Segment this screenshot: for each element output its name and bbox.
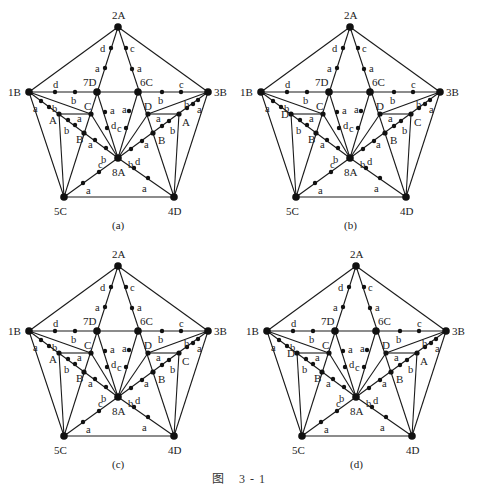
vertex-8A bbox=[346, 154, 354, 162]
inner-node bbox=[150, 369, 155, 374]
edge-label: a bbox=[33, 342, 38, 353]
vertex-1B bbox=[263, 327, 271, 335]
edge-label: d bbox=[332, 43, 338, 54]
inner-node bbox=[145, 350, 150, 355]
dot bbox=[146, 176, 150, 180]
edge-label: a bbox=[315, 352, 320, 363]
dot bbox=[335, 110, 339, 114]
edge-label: a bbox=[88, 378, 93, 389]
dot bbox=[191, 341, 195, 345]
edge-label: c bbox=[98, 398, 103, 409]
dot bbox=[130, 67, 134, 71]
inner-node-label: C bbox=[414, 116, 421, 128]
dot bbox=[277, 338, 281, 342]
edge-label: b bbox=[170, 364, 175, 375]
vertex-5C bbox=[292, 193, 300, 201]
edge-2A-1B bbox=[29, 27, 118, 92]
vertex-label: 3B bbox=[214, 325, 227, 337]
edge-label: a bbox=[327, 63, 332, 74]
edge-label: a bbox=[86, 185, 91, 196]
inner-node bbox=[414, 350, 419, 355]
figure-3-1: 2A1B3B7D6C8A5C4Ddacadbcbabababadacababac… bbox=[0, 0, 478, 493]
edge-label: a bbox=[86, 424, 91, 435]
dot bbox=[160, 363, 164, 367]
edge-label: a bbox=[265, 103, 270, 114]
edge-label: a bbox=[348, 344, 353, 355]
dot bbox=[103, 110, 107, 114]
dot bbox=[167, 119, 171, 123]
dot bbox=[341, 349, 345, 353]
edge-label: a bbox=[122, 104, 127, 115]
vertex-2A bbox=[114, 23, 122, 31]
inner-node-label: B bbox=[76, 372, 83, 384]
vertex-1B bbox=[257, 88, 265, 96]
vertex-label: 7D bbox=[83, 315, 97, 327]
edge-label: b bbox=[360, 159, 365, 170]
edge-2A-3B bbox=[118, 266, 208, 331]
edge-label: d bbox=[100, 282, 106, 293]
edge-label: a bbox=[324, 424, 329, 435]
edge-label: a bbox=[77, 113, 82, 124]
dot bbox=[124, 365, 128, 369]
edge-label: d bbox=[53, 318, 59, 329]
dot bbox=[356, 46, 360, 50]
vertex-3B bbox=[204, 88, 212, 96]
edge-1B-LC bbox=[267, 331, 329, 353]
edge-2A-3B bbox=[350, 27, 440, 92]
inner-node-label: D bbox=[382, 339, 390, 351]
dot bbox=[53, 90, 57, 94]
edge-label: b bbox=[158, 334, 163, 345]
edge-label: a bbox=[110, 105, 115, 116]
vertex-7D bbox=[93, 88, 101, 96]
edge-label: a bbox=[271, 342, 276, 353]
vertex-5C bbox=[298, 432, 306, 440]
vertex-label: 3B bbox=[446, 86, 459, 98]
dot bbox=[103, 66, 107, 70]
panel-a: 2A1B3B7D6C8A5C4Ddacadbcbabababadacababac… bbox=[8, 9, 227, 232]
edge-label: a bbox=[374, 183, 379, 194]
edge-label: b bbox=[64, 364, 69, 375]
dot bbox=[362, 285, 366, 289]
dot bbox=[160, 329, 164, 333]
vertex-label: 3B bbox=[452, 325, 465, 337]
dot bbox=[179, 329, 183, 333]
edge-label: c bbox=[336, 398, 341, 409]
edge-label: c bbox=[417, 318, 422, 329]
edge-1B-LC bbox=[29, 92, 91, 114]
edge-label: a bbox=[144, 139, 149, 150]
inner-node-label: D bbox=[287, 347, 295, 359]
dot bbox=[319, 420, 323, 424]
dot bbox=[291, 329, 295, 333]
edge-label: a bbox=[95, 63, 100, 74]
vertex-5C bbox=[60, 432, 68, 440]
vertex-label: 2A bbox=[112, 9, 126, 21]
inner-node-label: B bbox=[158, 134, 165, 146]
dot bbox=[329, 170, 333, 174]
vertex-3B bbox=[442, 327, 450, 335]
vertex-label: 8A bbox=[112, 405, 126, 417]
edge-label: b bbox=[303, 95, 308, 106]
dot bbox=[367, 386, 371, 390]
dot bbox=[129, 147, 133, 151]
edge-label: a bbox=[77, 352, 82, 363]
edge-label: a bbox=[388, 113, 393, 124]
edge-5C-8A bbox=[64, 158, 118, 197]
vertex-label: 2A bbox=[350, 248, 364, 260]
edge-label: a bbox=[318, 185, 323, 196]
vertex-label: 6C bbox=[140, 76, 153, 88]
dot bbox=[81, 420, 85, 424]
dot bbox=[362, 67, 366, 71]
edge-label: a bbox=[333, 302, 338, 313]
dot bbox=[109, 285, 113, 289]
edge-label: a bbox=[142, 422, 147, 433]
dot bbox=[341, 46, 345, 50]
inner-node bbox=[145, 111, 150, 116]
vertex-label: 1B bbox=[8, 325, 21, 337]
inner-node bbox=[88, 350, 93, 355]
vertex-label: 5C bbox=[286, 205, 299, 217]
inner-node bbox=[388, 369, 393, 374]
dot bbox=[105, 365, 109, 369]
edge-label: a bbox=[88, 139, 93, 150]
edge-label: c bbox=[362, 43, 367, 54]
edge-label: a bbox=[156, 113, 161, 124]
